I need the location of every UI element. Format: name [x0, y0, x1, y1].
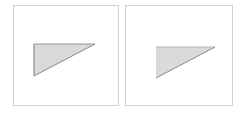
right-triangle: [156, 47, 215, 78]
diagram-canvas: [0, 0, 240, 116]
left-triangle: [34, 44, 95, 76]
